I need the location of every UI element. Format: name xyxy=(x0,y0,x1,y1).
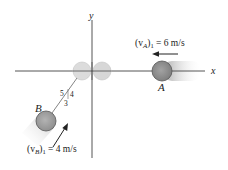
ball-a-label: A xyxy=(157,81,165,93)
x-axis-label: x xyxy=(210,65,216,76)
ball-b-velocity-label: (vB)1 = 4 m/s xyxy=(27,144,77,156)
slope-rise-label: 4 xyxy=(70,90,74,99)
ball-a-velocity-arrow xyxy=(152,51,178,57)
y-axis-label: y xyxy=(88,10,94,21)
slope-run-label: 3 xyxy=(64,99,68,108)
collision-diagram: x y A (vA)1 = 6 m/s 5 4 3 B (vB)1 = 4 m/… xyxy=(0,0,228,170)
ball-a-velocity-label: (vA)1 = 6 m/s xyxy=(135,38,185,50)
ball-b xyxy=(36,111,56,131)
slope-hypotenuse-label: 5 xyxy=(60,89,64,98)
ball-b-label: B xyxy=(35,102,42,114)
ball-a xyxy=(152,61,172,81)
